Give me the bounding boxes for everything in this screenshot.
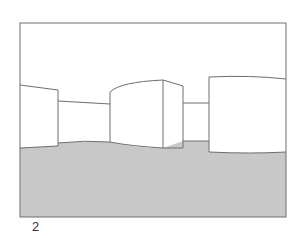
building-right [209, 76, 286, 153]
building-left [20, 85, 58, 148]
figure-label: 2 [32, 219, 39, 234]
wall-right [183, 103, 209, 141]
wall-left [58, 101, 110, 143]
building-center [110, 80, 183, 148]
ground-plane [20, 141, 286, 217]
panorama-diagram [0, 0, 300, 240]
